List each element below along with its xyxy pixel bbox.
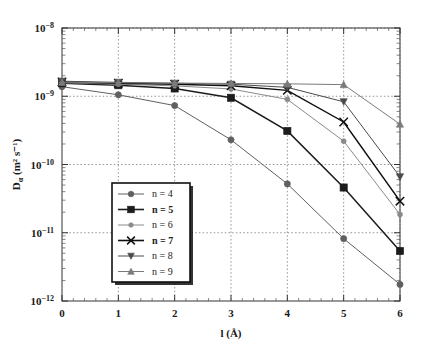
xtick-label: 5 [341,307,347,319]
legend-label: n = 6 [152,219,173,230]
xtick-label: 1 [116,307,122,319]
marker-smallcircle [341,139,346,144]
figure-panel: 012345610−1210−1110−1010−910−8 l (Å)Dα (… [0,0,429,358]
ytick-label: 10−8 [34,21,54,34]
legend-label: n = 8 [152,250,173,261]
marker-circle [284,181,290,187]
xtick-label: 4 [285,307,291,319]
xtick-label: 3 [228,307,234,319]
marker-circle [172,102,178,108]
svg-text:Dα (m² s⁻¹): Dα (m² s⁻¹) [10,139,25,191]
x-axis-label: l (Å) [220,327,241,340]
marker-square [284,127,291,134]
marker-circle [397,281,403,287]
legend-label: n = 7 [152,235,173,246]
marker-triangle-up [396,121,403,128]
legend-label: n = 9 [152,266,173,277]
chart-svg: 012345610−1210−1110−1010−910−8 l (Å)Dα (… [0,0,429,358]
marker-circle [228,137,234,143]
marker-square [128,206,135,213]
marker-smallcircle [285,97,290,102]
marker-square [396,247,403,254]
xtick-label: 6 [397,307,403,319]
marker-smallcircle [129,223,134,228]
legend[interactable]: n = 4n = 5n = 6n = 7n = 8n = 9 [112,183,193,285]
legend-label: n = 4 [152,188,173,199]
xtick-label: 0 [59,307,65,319]
marker-circle [115,92,121,98]
xtick-label: 2 [172,307,178,319]
ytick-label: 10−10 [30,158,54,171]
y-axis-label: Dα (m² s⁻¹) [10,139,25,191]
ytick-label: 10−12 [30,294,54,307]
marker-square [340,184,347,191]
ytick-label: 10−9 [34,89,54,102]
marker-circle [341,236,347,242]
legend-box [112,183,190,282]
marker-square [227,94,234,101]
marker-circle [128,191,134,197]
marker-smallcircle [398,212,403,217]
ytick-label: 10−11 [31,226,54,239]
tick-label-layer: 012345610−1210−1110−1010−910−8 [30,21,403,319]
legend-label: n = 5 [152,204,173,215]
series-layer [58,78,404,288]
